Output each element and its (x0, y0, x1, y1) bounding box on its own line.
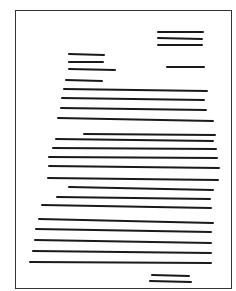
text-line (39, 219, 213, 223)
body-paragraph-3 (30, 187, 213, 263)
text-line-diagram (0, 0, 236, 291)
text-line (62, 98, 204, 100)
text-line (69, 54, 104, 55)
text-line (152, 275, 189, 276)
inside-address-block (69, 54, 115, 70)
text-line (49, 157, 217, 158)
text-line (53, 148, 216, 149)
text-line (42, 205, 211, 208)
heading-block (158, 32, 203, 45)
text-line (36, 229, 211, 232)
salutation-line (66, 80, 102, 81)
text-line (30, 262, 211, 263)
text-line (58, 118, 213, 121)
text-line (61, 108, 206, 110)
text-line (56, 139, 213, 141)
text-line (66, 80, 102, 81)
text-line (57, 197, 210, 199)
text-line (48, 178, 218, 180)
text-line (35, 240, 211, 243)
text-line (33, 251, 211, 253)
text-line (49, 166, 219, 168)
body-paragraph-1 (58, 89, 213, 121)
signature-block (150, 275, 191, 282)
text-line (69, 69, 115, 70)
text-line (158, 38, 202, 39)
text-line (84, 134, 215, 135)
body-paragraph-2 (48, 134, 219, 180)
text-line (150, 281, 191, 282)
text-line (64, 89, 207, 91)
text-line (69, 187, 213, 190)
